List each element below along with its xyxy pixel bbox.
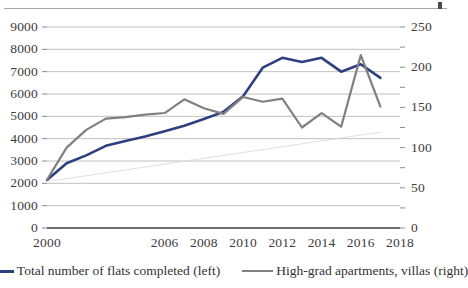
series-line	[47, 132, 380, 181]
legend-item[interactable]: High-grad apartments, villas (right)	[242, 263, 468, 279]
y-axis-left-tick-label: 3000	[0, 153, 38, 169]
y-axis-left-tick-label: 0	[0, 220, 38, 236]
chart-legend: Total number of flats completed (left)Hi…	[0, 258, 451, 284]
y-axis-left-tick-label: 1000	[0, 198, 38, 214]
y-axis-right-tick-label: 150	[411, 99, 432, 115]
x-axis-tick-label: 2018	[377, 235, 423, 251]
y-axis-left-tick-label: 4000	[0, 131, 38, 147]
legend-line-swatch-icon	[0, 270, 14, 273]
x-axis-tick-label: 2000	[24, 235, 70, 251]
y-axis-right-tick-label: 100	[411, 140, 432, 156]
y-axis-left-tick-label: 6000	[0, 86, 38, 102]
y-axis-right-tick-label: 0	[411, 220, 418, 236]
y-axis-left-tick-label: 9000	[0, 19, 38, 35]
legend-item[interactable]: Total number of flats completed (left)	[0, 263, 220, 279]
legend-item-label: High-grad apartments, villas (right)	[276, 263, 468, 279]
y-axis-left-tick-label: 8000	[0, 41, 38, 57]
y-axis-right-tick-label: 50	[411, 180, 425, 196]
y-axis-left-tick-label: 2000	[0, 175, 38, 191]
legend-item-label: Total number of flats completed (left)	[17, 263, 220, 279]
y-axis-right-tick-label: 200	[411, 59, 432, 75]
legend-line-swatch-icon	[242, 270, 273, 273]
y-axis-left-tick-label: 7000	[0, 64, 38, 80]
y-axis-right-tick-label: 250	[411, 19, 432, 35]
y-axis-left-tick-label: 5000	[0, 108, 38, 124]
